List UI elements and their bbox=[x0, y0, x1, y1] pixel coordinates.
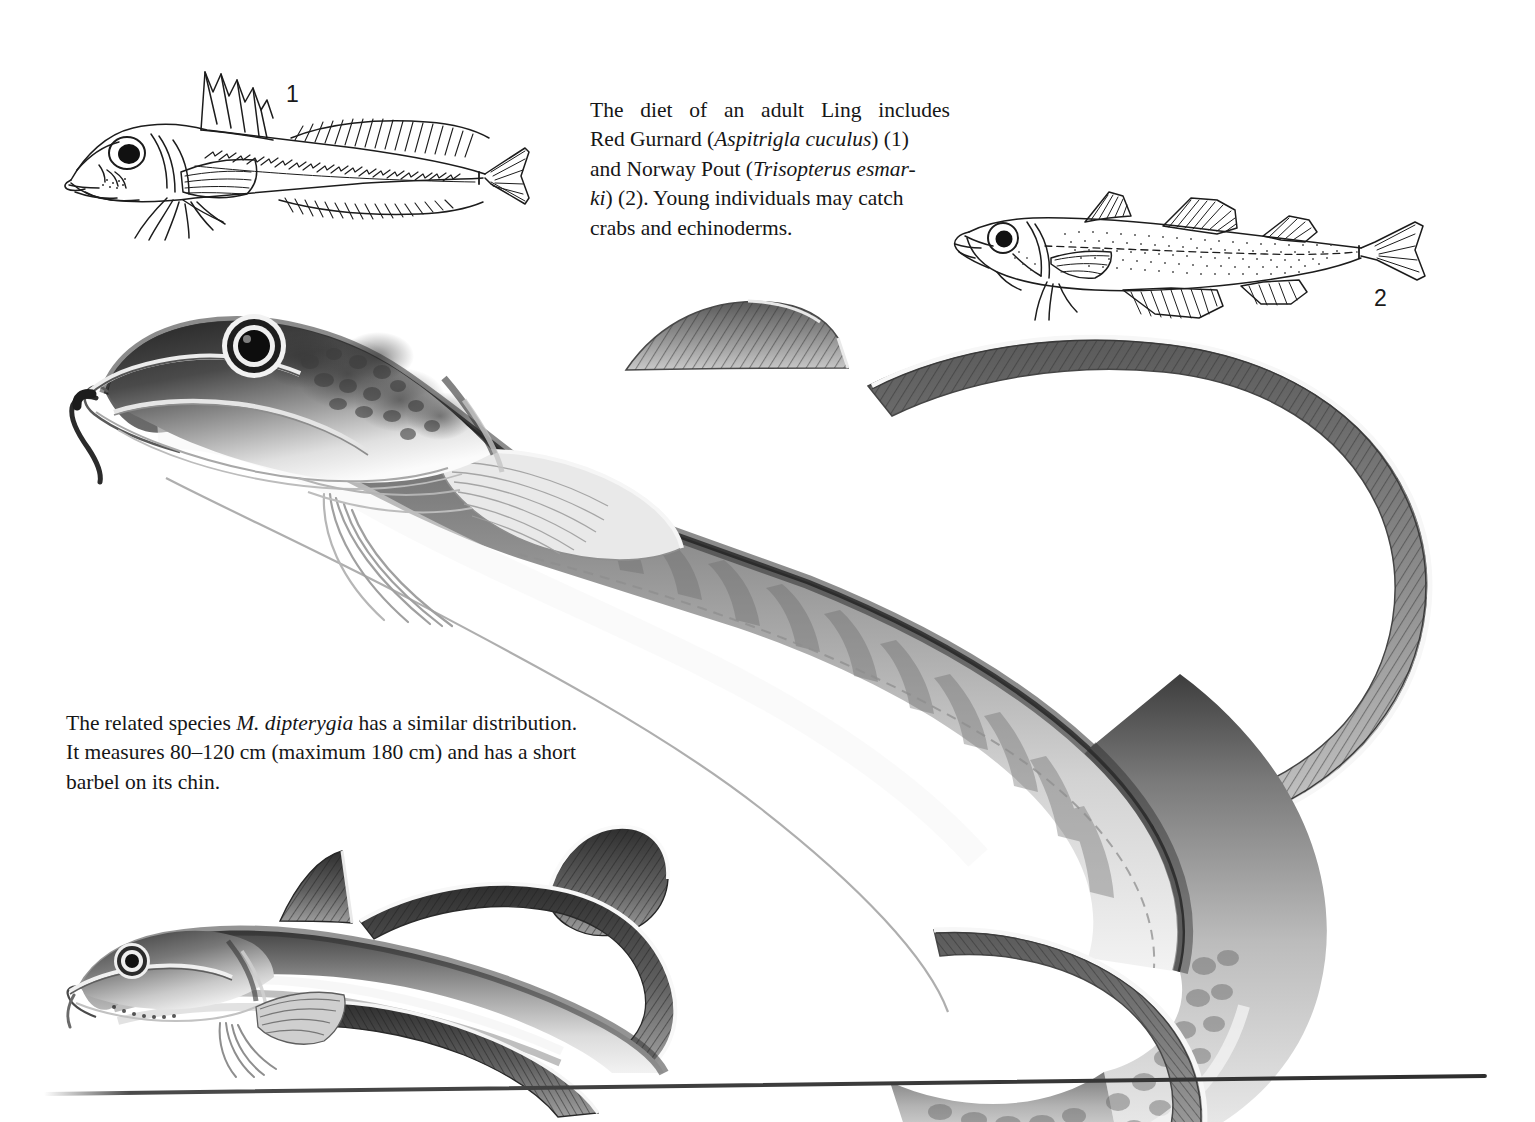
figure-label-1: 1 bbox=[286, 81, 299, 108]
red-gurnard-illustration bbox=[55, 52, 575, 242]
related-species-text-block: The related species M. dipterygia has a … bbox=[66, 709, 644, 797]
related-line-2: It measures 80–120 cm (maximum 180 cm) a… bbox=[66, 738, 644, 767]
blue-ling-eye bbox=[114, 943, 150, 979]
diet-line-4: ki) (2). Young individuals may catch bbox=[590, 184, 950, 213]
diet-line-2: Red Gurnard (Aspitrigla cuculus) (1) bbox=[590, 125, 950, 154]
blue-ling-first-dorsal-fin bbox=[280, 851, 352, 923]
diet-line-3: and Norway Pout (Trisopterus esmar- bbox=[590, 155, 950, 184]
ling-first-dorsal-fin bbox=[626, 301, 848, 370]
blue-ling-illustration bbox=[52, 795, 762, 1080]
diet-text-block: ThedietofanadultLingincludes Red Gurnard… bbox=[590, 96, 950, 243]
blue-ling-pectoral-fin bbox=[256, 992, 345, 1044]
diet-line-1: ThedietofanadultLingincludes bbox=[590, 96, 950, 125]
related-line-3: barbel on its chin. bbox=[66, 768, 644, 797]
ling-eye bbox=[222, 314, 286, 378]
related-line-1: The related species M. dipterygia has a … bbox=[66, 709, 644, 738]
diet-line-5: crabs and echinoderms. bbox=[590, 214, 950, 243]
illustration-page: 1 bbox=[0, 0, 1535, 1122]
